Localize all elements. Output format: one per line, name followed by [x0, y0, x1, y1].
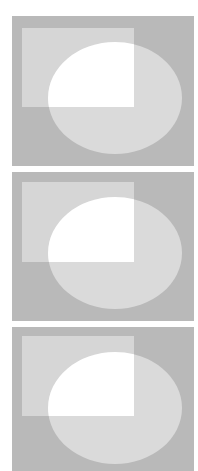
shapes-canvas [12, 172, 194, 321]
diagram-stage [0, 0, 198, 471]
shapes-canvas [12, 327, 194, 471]
shapes-canvas [12, 16, 194, 166]
panel-3 [12, 327, 194, 471]
panel-1 [12, 16, 194, 166]
panel-2 [12, 172, 194, 321]
